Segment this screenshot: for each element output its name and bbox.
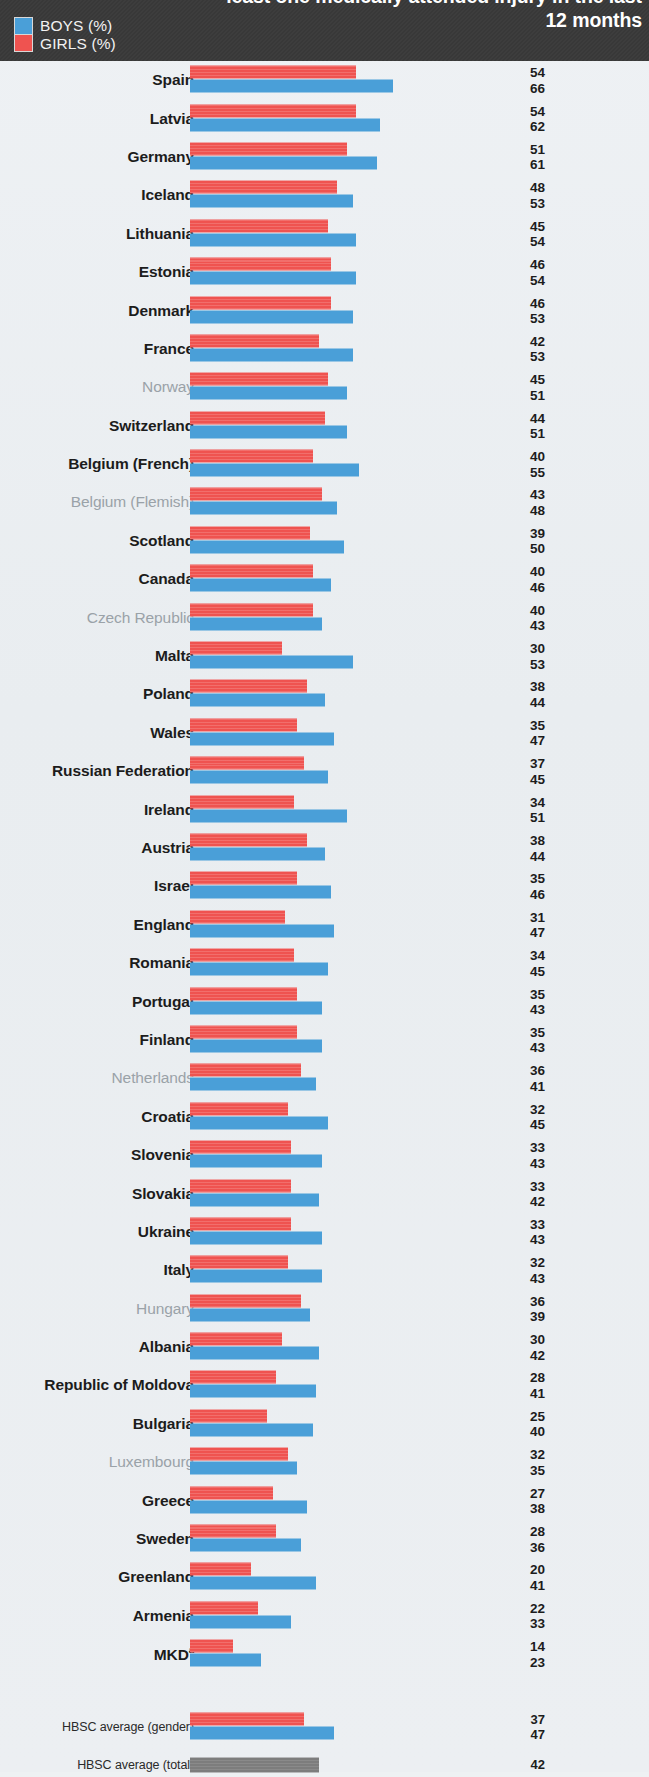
bar-girls xyxy=(190,834,307,847)
country-label: Greece xyxy=(0,1492,194,1510)
bar-boys xyxy=(190,1654,261,1667)
value-labels: 3546 xyxy=(497,871,545,902)
average-row: HBSC average (gender)3747 xyxy=(0,1707,649,1745)
country-label: Slovakia xyxy=(0,1185,194,1203)
average-label: HBSC average (total) xyxy=(0,1758,194,1772)
bar-girls xyxy=(190,104,356,117)
value-labels: 4551 xyxy=(497,372,545,403)
chart-row: Denmark4653 xyxy=(0,291,649,329)
bar-chart: Spain5466Latvia5462Germany5161Iceland485… xyxy=(0,61,649,1777)
bar-girls xyxy=(190,718,297,731)
country-label: Lithuania xyxy=(0,225,194,243)
value-boys: 40 xyxy=(497,1424,545,1440)
chart-row: Greece2738 xyxy=(0,1481,649,1519)
chart-row: Belgium (French)4055 xyxy=(0,445,649,483)
value-girls: 46 xyxy=(497,295,545,311)
bar-boys xyxy=(190,579,331,592)
bar-boys xyxy=(190,1539,301,1552)
country-label: Denmark xyxy=(0,302,194,320)
value-girls: 44 xyxy=(497,410,545,426)
chart-row: Germany5161 xyxy=(0,138,649,176)
bar-boys xyxy=(190,310,353,323)
value-boys: 39 xyxy=(497,1309,545,1325)
chart-row: Norway4551 xyxy=(0,368,649,406)
bar-group xyxy=(190,1064,490,1093)
value-boys: 51 xyxy=(497,387,545,403)
value-boys: 43 xyxy=(497,1155,545,1171)
value-labels: 3245 xyxy=(497,1101,545,1132)
chart-row: Luxembourg3235 xyxy=(0,1443,649,1481)
country-label: Estonia xyxy=(0,263,194,281)
bar-girls xyxy=(190,680,307,693)
value-labels: 2540 xyxy=(497,1408,545,1439)
value-girls: 27 xyxy=(497,1485,545,1501)
bar-group xyxy=(190,1601,490,1630)
value-labels: 4653 xyxy=(497,295,545,326)
bar-girls xyxy=(190,1448,288,1461)
value-boys: 35 xyxy=(497,1462,545,1478)
value-labels: 5161 xyxy=(497,141,545,172)
bar-group xyxy=(190,1563,490,1592)
value-labels: 3641 xyxy=(497,1063,545,1094)
value-labels: 3547 xyxy=(497,717,545,748)
chart-row: Croatia3245 xyxy=(0,1098,649,1136)
value-girls: 33 xyxy=(497,1140,545,1156)
value-girls: 35 xyxy=(497,717,545,733)
value-boys: 46 xyxy=(497,579,545,595)
value-boys: 43 xyxy=(497,1002,545,1018)
chart-row: Sweden2836 xyxy=(0,1520,649,1558)
chart-row: Latvia5462 xyxy=(0,99,649,137)
value-boys: 41 xyxy=(497,1577,545,1593)
value-boys: 51 xyxy=(497,810,545,826)
legend-swatch-boys xyxy=(15,18,32,35)
country-label: Ireland xyxy=(0,801,194,819)
value-girls: 39 xyxy=(497,525,545,541)
bar-girls xyxy=(190,488,322,501)
value-labels: 4046 xyxy=(497,564,545,595)
bar-boys xyxy=(190,1039,322,1052)
value-girls: 40 xyxy=(497,602,545,618)
value-girls: 28 xyxy=(497,1370,545,1386)
bar-girls xyxy=(190,910,285,923)
legend-swatch-girls xyxy=(15,35,32,51)
bar-group xyxy=(190,1333,490,1362)
value-girls: 33 xyxy=(497,1178,545,1194)
chart-row: Netherlands3641 xyxy=(0,1059,649,1097)
chart-row: Portugal3543 xyxy=(0,982,649,1020)
value-labels: 3343 xyxy=(497,1216,545,1247)
average-label: HBSC average (gender) xyxy=(0,1720,194,1734)
bar-boys xyxy=(190,1308,310,1321)
value-boys: 54 xyxy=(497,272,545,288)
value-girls: 38 xyxy=(497,833,545,849)
country-label: Slovenia xyxy=(0,1146,194,1164)
bar-boys xyxy=(190,233,356,246)
bar-boys xyxy=(190,425,347,438)
value-girls: 31 xyxy=(497,909,545,925)
country-label: Republic of Moldova xyxy=(0,1376,194,1394)
value-labels: 3342 xyxy=(497,1178,545,1209)
bar-boys xyxy=(190,387,347,400)
chart-row: Greenland2041 xyxy=(0,1558,649,1596)
bar-boys xyxy=(190,540,344,553)
bar-group xyxy=(190,296,490,325)
value-labels: 2836 xyxy=(497,1524,545,1555)
bar-girls xyxy=(190,1486,273,1499)
chart-row: Albania3042 xyxy=(0,1328,649,1366)
bar-group xyxy=(190,334,490,363)
value-girls: 35 xyxy=(497,1024,545,1040)
chart-row: Lithuania4554 xyxy=(0,215,649,253)
bar-group xyxy=(190,987,490,1016)
value-labels: 3747 xyxy=(497,1711,545,1742)
bar-girls xyxy=(190,258,331,271)
country-label: France xyxy=(0,340,194,358)
value-boys: 23 xyxy=(497,1654,545,1670)
value-girls: 33 xyxy=(497,1216,545,1232)
value-girls: 36 xyxy=(497,1063,545,1079)
chart-row: Spain5466 xyxy=(0,61,649,99)
bar-group xyxy=(190,1486,490,1515)
country-label: Bulgaria xyxy=(0,1415,194,1433)
value-girls: 34 xyxy=(497,948,545,964)
country-label: Malta xyxy=(0,647,194,665)
bar-girls xyxy=(190,565,313,578)
